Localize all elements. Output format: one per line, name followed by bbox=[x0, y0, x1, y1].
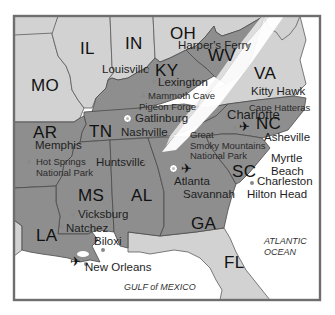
city-marker-vicksburg bbox=[71, 213, 75, 217]
state-label-va: VA bbox=[254, 65, 276, 82]
state-ia bbox=[14, 16, 58, 35]
city-hilton-head: Hilton Head bbox=[247, 189, 307, 201]
state-label-mo: MO bbox=[31, 77, 59, 94]
state-label-sc: SC bbox=[232, 163, 256, 180]
city-atlanta: Atlanta bbox=[174, 176, 210, 188]
city-new-orleans: New Orleans bbox=[85, 262, 151, 274]
state-label-al: AL bbox=[131, 187, 152, 204]
airport-icon-atlanta: ✈ bbox=[181, 162, 192, 175]
city-marker-hot-springs bbox=[27, 160, 31, 164]
city-memphis: Memphis bbox=[35, 140, 82, 152]
city-marker-huntsville bbox=[143, 160, 147, 164]
city-nashville: Nashville bbox=[121, 127, 168, 139]
city-mammoth-cave: Mammoth Cave bbox=[148, 91, 215, 101]
city-marker-charlotte bbox=[233, 126, 237, 130]
city-vicksburg: Vicksburg bbox=[78, 209, 128, 221]
state-label-in: IN bbox=[125, 35, 143, 52]
city-asheville: Asheville bbox=[264, 132, 310, 144]
city-marker-natchez bbox=[60, 225, 64, 229]
city-savannah: Savannah bbox=[183, 189, 235, 201]
city-marker-louisville bbox=[145, 68, 149, 72]
city-charlotte: Charlotte bbox=[227, 108, 280, 121]
city-huntsville: Huntsville bbox=[96, 157, 146, 169]
city-marker-harpers-ferry bbox=[246, 44, 250, 48]
state-label-il: IL bbox=[80, 40, 95, 57]
state-label-ms: MS bbox=[78, 187, 104, 204]
city-marker-biloxi bbox=[101, 248, 105, 252]
city-harpers-ferry: Harper's Ferry bbox=[178, 40, 251, 52]
label-atlantic-1: ATLANTIC bbox=[264, 236, 307, 246]
city-biloxi: Biloxi bbox=[94, 236, 121, 248]
airport-icon-charlotte: ✈ bbox=[239, 120, 250, 133]
city-natchez: Natchez bbox=[66, 223, 108, 235]
label-atlantic-2: OCEAN bbox=[264, 247, 296, 257]
state-label-la: LA bbox=[36, 227, 57, 244]
city-marker-lexington bbox=[152, 80, 156, 84]
state-label-ga: GA bbox=[191, 215, 216, 232]
state-label-tn: TN bbox=[89, 123, 112, 140]
city-myrtle-beach-1: Myrtle bbox=[271, 153, 302, 165]
national-park-marker-atlanta bbox=[169, 164, 178, 173]
city-hot-springs-np: National Park bbox=[36, 168, 93, 178]
park-great-smoky-3: National Park bbox=[190, 151, 247, 161]
state-label-fl: FL bbox=[224, 254, 244, 271]
city-marker-mammoth-cave bbox=[140, 92, 146, 97]
national-park-marker-gatlinburg bbox=[123, 114, 132, 123]
park-great-smoky-1: Great bbox=[190, 130, 214, 140]
city-kitty-hawk: Kitty Hawk bbox=[251, 86, 305, 98]
city-hot-springs: Hot Springs bbox=[36, 157, 86, 167]
label-gulf-of-mexico: GULF of MEXICO bbox=[124, 282, 196, 292]
city-pigeon-forge: Pigeon Forge bbox=[139, 102, 196, 112]
city-marker-charleston bbox=[250, 181, 254, 185]
airport-icon-new-orleans: ✈ bbox=[70, 255, 81, 268]
city-charleston: Charleston bbox=[257, 176, 313, 188]
city-louisville: Louisville bbox=[102, 64, 149, 76]
city-gatlinburg: Gatlinburg bbox=[135, 113, 188, 125]
city-lexington: Lexington bbox=[158, 77, 208, 89]
